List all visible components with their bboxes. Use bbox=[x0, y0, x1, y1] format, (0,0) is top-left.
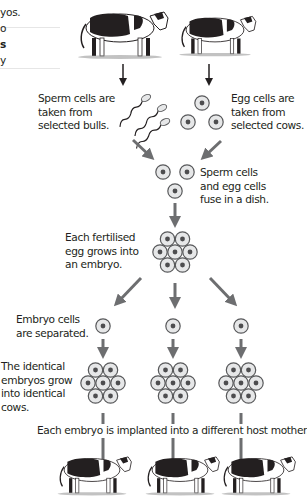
identical-label: The identicalembryos growinto identicalc… bbox=[1, 360, 72, 414]
separated-label: Embryo cellsare separated. bbox=[16, 313, 88, 340]
fused-cells-icon bbox=[156, 165, 194, 198]
host-mother-2-illustration bbox=[146, 457, 220, 496]
implant-label: Each embryo is implanted into a differen… bbox=[37, 424, 307, 438]
arrow-icon bbox=[133, 140, 150, 156]
egg-label: Egg cells aretaken fromselected cows. bbox=[231, 92, 304, 133]
arrow-icon bbox=[205, 141, 221, 156]
egg-cells-icon bbox=[181, 96, 223, 129]
host-mother-3-illustration bbox=[222, 457, 296, 496]
arrow-icon bbox=[118, 278, 141, 302]
cloning-diagram bbox=[0, 0, 307, 497]
donor-cow-illustration bbox=[179, 16, 256, 56]
arrow-icon bbox=[210, 278, 233, 302]
embryo-cluster-icon bbox=[153, 232, 197, 272]
fuse-label: Sperm cellsand egg cellsfuse in a dish. bbox=[200, 166, 269, 207]
sperm-label: Sperm cells aretaken fromselected bulls. bbox=[38, 92, 115, 133]
sperm-cells-icon bbox=[112, 93, 174, 149]
separated-cells-icon bbox=[96, 319, 248, 333]
bull-illustration bbox=[78, 12, 168, 59]
embryo-label: Each fertilisedegg grows intoan embryo. bbox=[65, 231, 139, 272]
host-mother-1-illustration bbox=[58, 457, 132, 496]
identical-embryos-icon bbox=[81, 363, 263, 403]
